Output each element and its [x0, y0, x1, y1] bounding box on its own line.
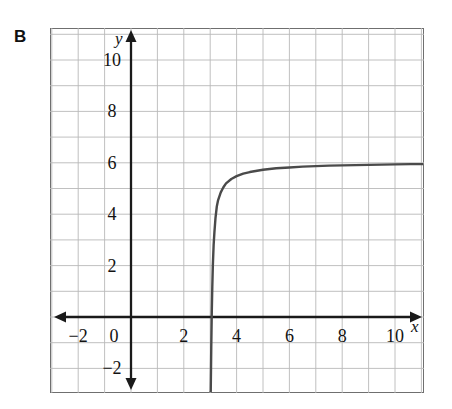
graph-figure: B −20246810108642−2 x y	[0, 0, 452, 409]
y-axis-label: y	[115, 30, 123, 47]
y-tick-3: 4	[94, 205, 130, 223]
x-tick-1: 0	[96, 327, 132, 345]
x-tick-5: 8	[324, 327, 360, 345]
x-tick-3: 4	[219, 327, 255, 345]
y-tick-5: −2	[94, 359, 130, 377]
y-tick-2: 6	[94, 154, 130, 172]
y-tick-0: 10	[94, 51, 130, 69]
x-tick-0: −2	[60, 327, 96, 345]
y-tick-1: 8	[94, 102, 130, 120]
y-tick-4: 2	[94, 257, 130, 275]
panel-label: B	[14, 27, 26, 47]
x-axis-label: x	[411, 318, 419, 335]
x-tick-2: 2	[166, 327, 202, 345]
x-tick-4: 6	[271, 327, 307, 345]
x-tick-6: 10	[377, 327, 413, 345]
